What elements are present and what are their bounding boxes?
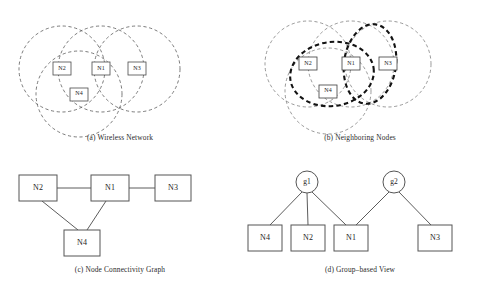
node-n4[interactable]: N4 xyxy=(248,225,282,251)
node-boxes: N2 N1 N3 N4 xyxy=(19,175,191,256)
node-n1[interactable]: N1 xyxy=(91,175,129,201)
edge-g1-n2 xyxy=(307,193,308,225)
group-label: g1 xyxy=(303,177,311,186)
node-n1[interactable]: N1 xyxy=(92,62,110,75)
node-label: N2 xyxy=(304,60,311,66)
group-g1[interactable]: g1 xyxy=(296,171,318,193)
edge-n1-n4 xyxy=(87,201,106,230)
panel-b-caption: (b) Neighboring Nodes xyxy=(240,133,480,142)
node-n3[interactable]: N3 xyxy=(128,62,146,75)
node-n2[interactable]: N2 xyxy=(53,62,71,75)
panel-a-caption: (a) Wireless Network xyxy=(0,133,240,142)
node-n3[interactable]: N3 xyxy=(418,225,452,251)
transmission-range-circles xyxy=(19,26,180,137)
edge-g1-n1 xyxy=(312,192,346,225)
panel-node-connectivity-graph: N2 N1 N3 N4 (c) Node Connectivity Graph xyxy=(0,160,240,292)
node-label: N3 xyxy=(384,60,391,66)
edge-g1-n4 xyxy=(270,192,302,225)
node-n3[interactable]: N3 xyxy=(379,57,397,70)
panel-group-based-view: g1 g2 N4 N2 N1 xyxy=(240,160,480,292)
group-g2[interactable]: g2 xyxy=(383,171,405,193)
node-label: N2 xyxy=(33,183,43,192)
edge-g2-n1 xyxy=(356,192,389,225)
node-n3[interactable]: N3 xyxy=(155,175,191,201)
node-label: N1 xyxy=(347,60,354,66)
node-label: N1 xyxy=(105,183,115,192)
node-label: N3 xyxy=(430,233,440,242)
node-label: N4 xyxy=(75,90,82,96)
node-n4[interactable]: N4 xyxy=(70,88,88,101)
node-n4[interactable]: N4 xyxy=(319,85,337,98)
node-label: N3 xyxy=(168,183,178,192)
panel-wireless-network: N2 N1 N3 N4 (a) Wireless Network xyxy=(0,2,240,152)
panel-a-canvas: N2 N1 N3 N4 xyxy=(0,2,240,152)
node-n1[interactable]: N1 xyxy=(342,57,360,70)
node-label: N2 xyxy=(58,65,65,71)
group-label: g2 xyxy=(390,177,398,186)
node-label: N1 xyxy=(346,233,356,242)
group-circles: g1 g2 xyxy=(296,171,405,193)
panel-neighboring-nodes: N2 N1 N3 N4 (b) Neighboring Nodes xyxy=(240,2,480,152)
node-label: N3 xyxy=(133,65,140,71)
node-n2[interactable]: N2 xyxy=(299,57,317,70)
node-label: N4 xyxy=(324,87,331,93)
node-n2[interactable]: N2 xyxy=(291,225,325,251)
group-boundary-g1[interactable] xyxy=(286,36,378,111)
node-label: N1 xyxy=(97,65,104,71)
node-label: N2 xyxy=(303,233,313,242)
figure-container: N2 N1 N3 N4 (a) Wireless Network xyxy=(0,0,480,292)
node-n2[interactable]: N2 xyxy=(19,175,57,201)
node-label: N4 xyxy=(77,238,87,247)
node-n1[interactable]: N1 xyxy=(334,225,368,251)
panel-c-caption: (c) Node Connectivity Graph xyxy=(0,265,240,274)
edge-g2-n3 xyxy=(399,192,431,225)
panel-d-caption: (d) Group–based View xyxy=(240,265,480,274)
graph-edges xyxy=(270,192,431,225)
panel-b-canvas: N2 N1 N3 N4 xyxy=(240,2,480,152)
node-n4[interactable]: N4 xyxy=(64,230,100,256)
edge-n2-n4 xyxy=(42,201,78,230)
node-boxes: N4 N2 N1 N3 xyxy=(248,225,452,251)
node-label: N4 xyxy=(260,233,270,242)
